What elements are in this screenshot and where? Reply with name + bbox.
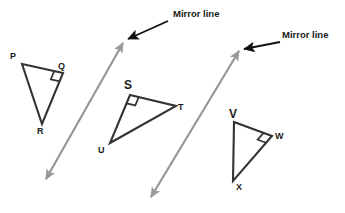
triangles-group (22, 64, 272, 181)
triangle-vwx (233, 122, 272, 181)
mirror-lines-group (46, 43, 239, 197)
vertex-label-r: R (37, 127, 44, 136)
mirror-line-label-2-text: Mirror line (282, 30, 328, 40)
triangle-pqr (22, 64, 63, 124)
diagram-canvas: PQRSTUVWXMirror lineMirror line (0, 0, 345, 213)
mirror-line-label-1-pointer (128, 21, 168, 39)
vertex-label-t: T (178, 103, 184, 112)
vertex-label-p: P (10, 52, 16, 61)
vertex-label-x: X (236, 183, 242, 192)
vertex-label-w: W (275, 132, 284, 141)
mirror-line-2-reverse-head (151, 51, 239, 197)
vertex-label-s: S (124, 79, 132, 91)
triangle-stu (110, 95, 176, 143)
vertex-label-v: V (229, 108, 237, 120)
annotation-pointers-group (128, 21, 280, 49)
vertex-label-q: Q (58, 62, 65, 71)
mirror-line-label-1-text: Mirror line (173, 9, 219, 19)
mirror-line-label-2-pointer (244, 42, 280, 49)
vertex-label-u: U (98, 146, 105, 155)
